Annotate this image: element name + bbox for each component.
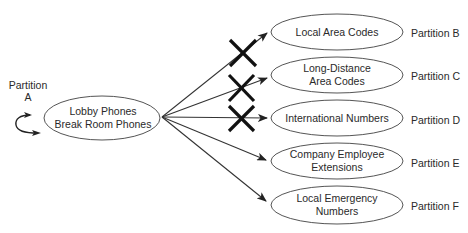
source-node: Lobby Phones Break Room Phones <box>44 96 160 140</box>
target-label-line2: Extensions <box>311 161 362 173</box>
arrows <box>162 33 267 201</box>
target-label: International Numbers <box>285 112 388 124</box>
arrow-to-partition-d <box>162 117 267 118</box>
loop-arrow-icon <box>16 112 41 136</box>
target-node-b: Local Area Codes Partition B <box>271 14 459 50</box>
target-label-line1: Long-Distance <box>303 62 371 74</box>
target-label-line2: Area Codes <box>309 75 364 87</box>
target-node-e: Company Employee Extensions Partition E <box>271 143 459 179</box>
partition-label: Partition E <box>411 157 459 169</box>
target-label: Local Area Codes <box>296 26 379 38</box>
x-mark-icon <box>230 40 256 66</box>
target-node-d: International Numbers Partition D <box>271 100 460 136</box>
target-label-line1: Local Emergency <box>296 192 378 204</box>
arrow-to-partition-e <box>162 117 266 160</box>
partition-diagram: Partition A Lobby Phones Break Room Phon… <box>0 0 468 233</box>
partition-a-label-line1: Partition <box>9 79 48 91</box>
partition-a-label: Partition A <box>9 79 48 103</box>
target-label-line2: Numbers <box>316 205 359 217</box>
source-line2: Break Room Phones <box>55 118 152 130</box>
source-line1: Lobby Phones <box>69 105 136 117</box>
partition-label: Partition F <box>411 200 459 212</box>
x-mark-icon <box>229 75 254 101</box>
target-node-c: Long-Distance Area Codes Partition C <box>271 57 460 93</box>
partition-a-label-line2: A <box>24 91 31 103</box>
target-label-line1: Company Employee <box>290 148 385 160</box>
partition-label: Partition D <box>411 114 460 126</box>
partition-label: Partition C <box>411 70 460 82</box>
target-node-f: Local Emergency Numbers Partition F <box>271 186 459 224</box>
x-mark-icon <box>229 106 254 131</box>
partition-label: Partition B <box>411 27 459 39</box>
